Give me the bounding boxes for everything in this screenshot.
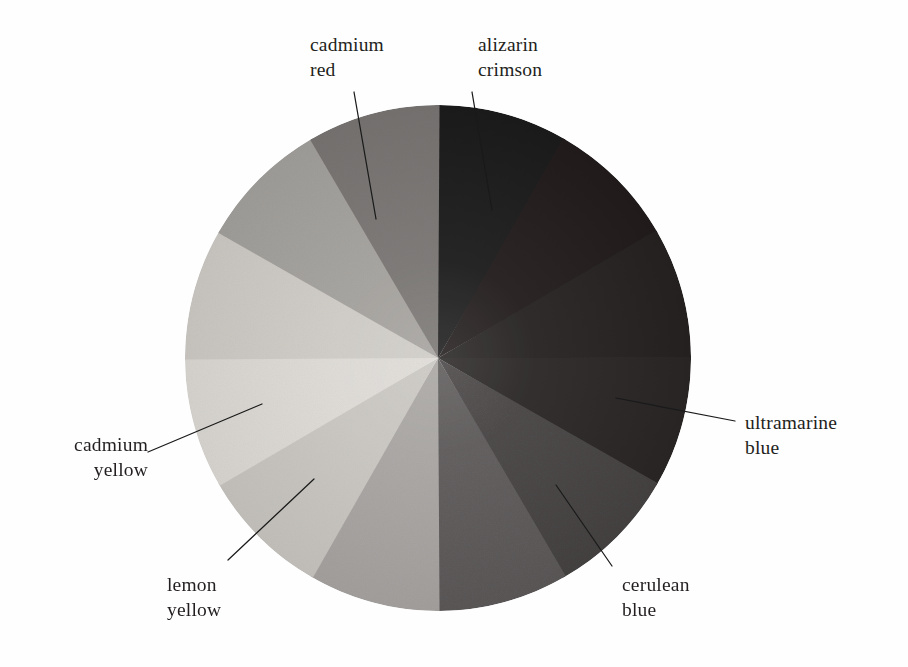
label-alizarin-crimson-line2: crimson bbox=[478, 59, 542, 80]
label-alizarin-crimson-line1: alizarin bbox=[478, 34, 538, 55]
label-cerulean-blue-line1: cerulean bbox=[622, 574, 690, 595]
label-cadmium-red: cadmiumred bbox=[310, 32, 384, 82]
label-ultramarine-blue-line1: ultramarine bbox=[745, 412, 837, 433]
label-ultramarine-blue: ultramarineblue bbox=[745, 410, 837, 460]
label-ultramarine-blue-line2: blue bbox=[745, 437, 779, 458]
label-cadmium-yellow-line1: cadmium bbox=[74, 434, 148, 455]
label-cadmium-red-line2: red bbox=[310, 59, 336, 80]
label-cadmium-yellow: cadmiumyellow bbox=[16, 432, 148, 482]
color-wheel-svg bbox=[0, 0, 908, 667]
label-lemon-yellow: lemonyellow bbox=[167, 572, 221, 622]
label-cerulean-blue-line2: blue bbox=[622, 599, 656, 620]
label-alizarin-crimson: alizarincrimson bbox=[478, 32, 542, 82]
color-wheel-figure: cadmiumred alizarincrimson ultramarinebl… bbox=[0, 0, 908, 667]
label-cadmium-yellow-line2: yellow bbox=[94, 459, 148, 480]
label-cerulean-blue: ceruleanblue bbox=[622, 572, 690, 622]
label-lemon-yellow-line1: lemon bbox=[167, 574, 217, 595]
label-cadmium-red-line1: cadmium bbox=[310, 34, 384, 55]
wheel-center-shading bbox=[185, 105, 691, 611]
label-lemon-yellow-line2: yellow bbox=[167, 599, 221, 620]
